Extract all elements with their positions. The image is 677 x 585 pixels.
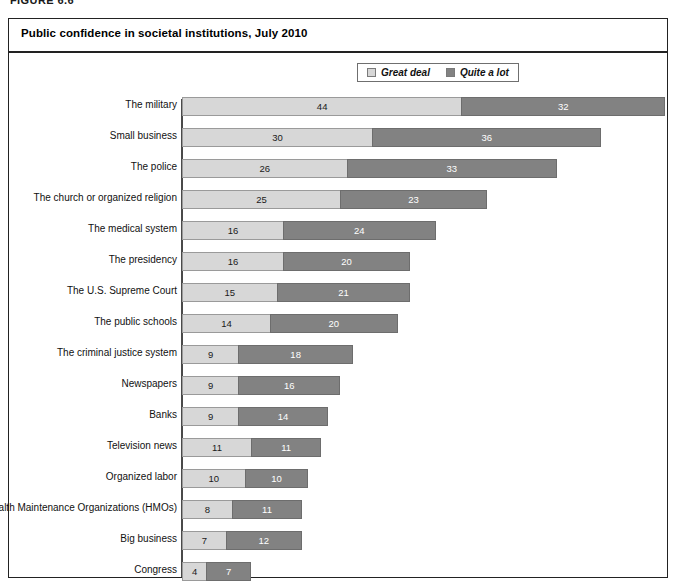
bar-value-label: 11	[262, 505, 272, 515]
bar-segment-great-deal: 7	[182, 531, 227, 550]
figure-frame: Public confidence in societal institutio…	[8, 18, 668, 578]
legend-label-quite-a-lot: Quite a lot	[460, 67, 509, 78]
bar-value-label: 23	[408, 195, 419, 205]
category-label: Organized labor	[0, 471, 182, 482]
bar-value-label: 16	[228, 257, 239, 267]
category-label: Congress	[0, 564, 182, 575]
bar-segment-quite-a-lot: 7	[206, 562, 251, 581]
bar-segment-great-deal: 11	[182, 438, 252, 457]
bar-value-label: 8	[205, 505, 210, 515]
bar-segment-great-deal: 16	[182, 221, 284, 240]
bar-value-label: 9	[208, 412, 213, 422]
bar-value-label: 12	[259, 536, 270, 546]
legend-item-quite-a-lot: Quite a lot	[446, 67, 509, 78]
stacked-bar: 47	[182, 562, 251, 581]
stacked-bar: 712	[182, 531, 302, 550]
bar-segment-quite-a-lot: 10	[245, 469, 309, 488]
title-divider	[9, 51, 667, 53]
bar-value-label: 7	[226, 567, 231, 577]
bar-value-label: 9	[208, 350, 213, 360]
category-label: Newspapers	[0, 378, 182, 389]
stacked-bar: 916	[182, 376, 340, 395]
stacked-bar: 1111	[182, 438, 321, 457]
category-label: Health Maintenance Organizations (HMOs)	[0, 502, 182, 513]
bar-segment-great-deal: 10	[182, 469, 246, 488]
bar-value-label: 20	[329, 319, 340, 329]
bar-row: Small business3036	[9, 126, 667, 157]
legend-item-great-deal: Great deal	[367, 67, 430, 78]
stacked-bar: 2633	[182, 159, 557, 178]
bar-value-label: 16	[228, 226, 239, 236]
category-label: The public schools	[0, 316, 182, 327]
bar-value-label: 14	[221, 319, 232, 329]
figure-number-caption: FIGURE 6.6	[10, 0, 74, 6]
bar-segment-quite-a-lot: 11	[251, 438, 321, 457]
bar-segment-great-deal: 44	[182, 97, 462, 116]
legend-swatch-great-deal-icon	[367, 68, 376, 77]
bar-row: The military4432	[9, 95, 667, 126]
bar-value-label: 44	[317, 102, 328, 112]
bar-segment-great-deal: 9	[182, 345, 239, 364]
stacked-bar: 914	[182, 407, 328, 426]
stacked-bar: 811	[182, 500, 302, 519]
bar-segment-quite-a-lot: 20	[283, 252, 410, 271]
category-label: The medical system	[0, 223, 182, 234]
bar-segment-quite-a-lot: 16	[238, 376, 340, 395]
stacked-bar: 1010	[182, 469, 308, 488]
bar-segment-quite-a-lot: 33	[347, 159, 557, 178]
bar-row: The police2633	[9, 157, 667, 188]
stacked-bar: 3036	[182, 128, 601, 147]
category-label: The presidency	[0, 254, 182, 265]
bar-segment-quite-a-lot: 21	[277, 283, 411, 302]
bar-value-label: 7	[202, 536, 207, 546]
bar-segment-quite-a-lot: 36	[372, 128, 601, 147]
bar-row: Television news1111	[9, 436, 667, 467]
category-label: Big business	[0, 533, 182, 544]
bar-value-label: 10	[271, 474, 282, 484]
bar-segment-great-deal: 25	[182, 190, 341, 209]
bar-segment-quite-a-lot: 14	[238, 407, 327, 426]
bar-row: Big business712	[9, 529, 667, 560]
bar-segment-great-deal: 14	[182, 314, 271, 333]
bar-row: Congress47	[9, 560, 667, 585]
stacked-bar: 918	[182, 345, 353, 364]
bar-row: The U.S. Supreme Court1521	[9, 281, 667, 312]
bar-value-label: 15	[224, 288, 235, 298]
bar-row: Banks914	[9, 405, 667, 436]
stacked-bar: 4432	[182, 97, 665, 116]
bar-value-label: 33	[446, 164, 457, 174]
category-label: Small business	[0, 130, 182, 141]
bar-row: Organized labor1010	[9, 467, 667, 498]
bar-value-label: 26	[260, 164, 271, 174]
bar-segment-great-deal: 30	[182, 128, 373, 147]
category-label: The criminal justice system	[0, 347, 182, 358]
bar-row: The criminal justice system918	[9, 343, 667, 374]
category-label: The police	[0, 161, 182, 172]
chart-title: Public confidence in societal institutio…	[21, 27, 307, 39]
bar-value-label: 21	[338, 288, 349, 298]
bar-segment-great-deal: 16	[182, 252, 284, 271]
bar-segment-quite-a-lot: 32	[461, 97, 665, 116]
bar-segment-quite-a-lot: 18	[238, 345, 353, 364]
bar-row: The public schools1420	[9, 312, 667, 343]
category-label: The church or organized religion	[0, 192, 182, 203]
bar-value-label: 36	[481, 133, 492, 143]
stacked-bar: 1420	[182, 314, 398, 333]
bar-segment-great-deal: 9	[182, 376, 239, 395]
bar-segment-quite-a-lot: 11	[232, 500, 302, 519]
bar-row: Newspapers916	[9, 374, 667, 405]
stacked-bar: 2523	[182, 190, 487, 209]
category-label: The U.S. Supreme Court	[0, 285, 182, 296]
bar-segment-great-deal: 15	[182, 283, 278, 302]
bar-segment-great-deal: 26	[182, 159, 348, 178]
bar-segment-quite-a-lot: 24	[283, 221, 436, 240]
legend-swatch-quite-a-lot-icon	[446, 68, 455, 77]
bar-value-label: 32	[558, 102, 569, 112]
bar-value-label: 11	[281, 443, 291, 453]
bar-segment-quite-a-lot: 12	[226, 531, 302, 550]
category-label: The military	[0, 99, 182, 110]
bar-segment-quite-a-lot: 23	[340, 190, 487, 209]
bar-value-label: 25	[256, 195, 267, 205]
bar-row: The presidency1620	[9, 250, 667, 281]
bar-value-label: 30	[272, 133, 283, 143]
